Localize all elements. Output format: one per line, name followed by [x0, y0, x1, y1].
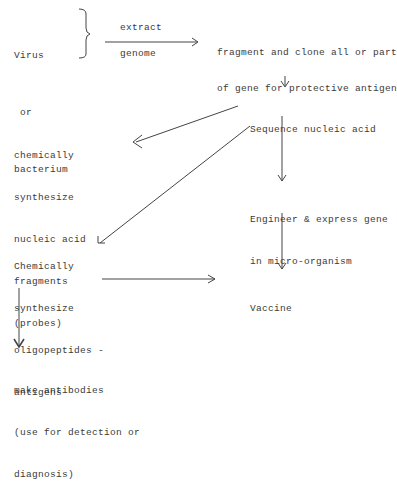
node-probes-line: synthesize — [14, 191, 86, 205]
edge-label-extract: extract — [120, 21, 162, 35]
node-antibodies-line: (use for detection or — [14, 426, 140, 440]
node-engineer: Engineer & express gene in micro-organis… — [250, 185, 388, 283]
arrow-oligopeptides-to-vaccine — [102, 275, 215, 283]
node-vaccine-line: Vaccine — [250, 302, 292, 316]
node-source-line: or — [14, 103, 68, 122]
node-fragment-line: fragment and clone all or part — [217, 47, 397, 59]
node-engineer-line: in micro-organism — [250, 255, 388, 269]
arrow-sequence-to-probes — [133, 106, 238, 148]
node-sequence: Sequence nucleic acid — [250, 95, 376, 151]
node-oligopeptides-line: Chemically — [14, 260, 104, 274]
node-antibodies-line: make antibodies — [14, 384, 140, 398]
curly-brace — [79, 9, 90, 58]
node-fragment-line: of gene for protective antigen — [217, 83, 397, 95]
edge-label-genome: genome — [120, 47, 156, 61]
node-oligopeptides-line: synthesize — [14, 302, 104, 316]
node-sequence-line: Sequence nucleic acid — [250, 123, 376, 137]
node-source-line: Virus — [14, 46, 68, 65]
arrow-source-to-fragment — [105, 38, 198, 46]
node-antibodies-line: diagnosis) — [14, 468, 140, 482]
node-engineer-line: Engineer & express gene — [250, 213, 388, 227]
node-vaccine: Vaccine — [250, 274, 292, 330]
arrow-sequence-to-oligopeptides — [98, 126, 250, 243]
node-probes-line: chemically — [14, 149, 86, 163]
node-antibodies: make antibodies (use for detection or di… — [14, 356, 140, 483]
